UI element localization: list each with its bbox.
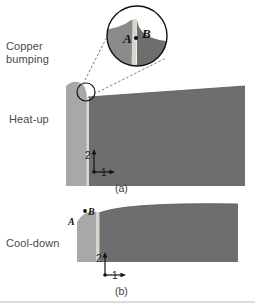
panel-b-axis-label-2: 2	[96, 253, 102, 264]
magnified-inset	[100, 6, 175, 78]
panel-b-graphics	[77, 204, 238, 278]
heat-up-label: Heat-up	[9, 113, 49, 126]
cool-down-label: Cool-down	[6, 237, 59, 250]
panel-a-caption: (a)	[115, 182, 128, 194]
panel-a-axis-label-2: 2	[85, 150, 91, 161]
inset-point-a-label: A	[123, 31, 132, 47]
inset-point-b-label: B	[142, 26, 151, 42]
panel-b-point-b-label: B	[88, 206, 95, 217]
panel-b-point-a-label: A	[68, 216, 75, 227]
figure-container: Copper bumping Heat-up Cool-down (a) (b)…	[0, 0, 255, 303]
panel-a-axis-label-1: 1	[101, 167, 107, 178]
inset-point-marker	[134, 36, 138, 40]
panel-b-caption: (b)	[115, 285, 128, 297]
panel-a-interface-strip	[87, 97, 90, 186]
panel-b-axis-label-1: 1	[112, 270, 118, 281]
panel-a-light-column	[66, 82, 87, 186]
panel-b-light-column	[77, 211, 97, 262]
copper-bumping-label: Copper bumping	[6, 40, 49, 66]
panel-b-point-marker	[83, 209, 87, 213]
panel-b-dark-body	[99, 204, 238, 262]
